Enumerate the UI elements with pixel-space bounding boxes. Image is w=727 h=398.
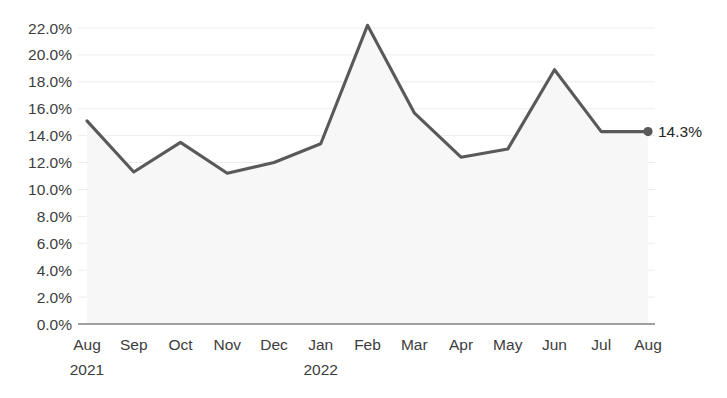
line-area-chart: 0.0%2.0%4.0%6.0%8.0%10.0%12.0%14.0%16.0%…	[0, 0, 727, 398]
end-point-marker-group	[643, 127, 652, 136]
chart-container: 0.0%2.0%4.0%6.0%8.0%10.0%12.0%14.0%16.0%…	[0, 0, 727, 398]
x-axis-year-labels: 20212022	[70, 361, 338, 378]
x-axis-tick-label: Jun	[542, 336, 567, 353]
y-axis-tick-labels: 0.0%2.0%4.0%6.0%8.0%10.0%12.0%14.0%16.0%…	[28, 20, 72, 333]
y-axis-tick-label: 14.0%	[28, 127, 72, 144]
y-axis-tick-label: 6.0%	[37, 235, 73, 252]
x-axis-tick-label: Apr	[449, 336, 473, 353]
x-axis-tick-labels: AugSepOctNovDecJanFebMarAprMayJunJulAug	[73, 336, 662, 353]
y-axis-tick-label: 16.0%	[28, 100, 72, 117]
y-axis-tick-label: 8.0%	[37, 208, 73, 225]
x-axis-tick-label: May	[493, 336, 523, 353]
x-axis-tick-label: Feb	[354, 336, 381, 353]
y-axis-tick-label: 10.0%	[28, 181, 72, 198]
x-axis-tick-label: Sep	[120, 336, 148, 353]
end-point-value-label: 14.3%	[658, 123, 702, 140]
y-axis-tick-label: 12.0%	[28, 154, 72, 171]
y-axis-tick-label: 22.0%	[28, 20, 72, 37]
x-axis-tick-label: Jan	[308, 336, 333, 353]
area-fill-group	[87, 25, 648, 324]
x-axis-tick-label: Nov	[213, 336, 241, 353]
y-axis-tick-label: 20.0%	[28, 46, 72, 63]
y-axis-tick-label: 4.0%	[37, 262, 73, 279]
end-point-value-label-group: 14.3%	[658, 123, 702, 140]
x-axis-year-label: 2021	[70, 361, 104, 378]
x-axis-year-label: 2022	[304, 361, 338, 378]
y-axis-tick-label: 18.0%	[28, 73, 72, 90]
y-axis-tick-label: 0.0%	[37, 316, 73, 333]
area-fill	[87, 25, 648, 324]
end-point-marker	[643, 127, 652, 136]
x-axis-tick-label: Oct	[168, 336, 193, 353]
x-axis-tick-label: Dec	[260, 336, 288, 353]
x-axis-tick-label: Aug	[634, 336, 662, 353]
x-axis-tick-label: Jul	[591, 336, 611, 353]
x-axis-tick-label: Aug	[73, 336, 101, 353]
x-axis-tick-label: Mar	[401, 336, 428, 353]
y-axis-tick-label: 2.0%	[37, 289, 73, 306]
